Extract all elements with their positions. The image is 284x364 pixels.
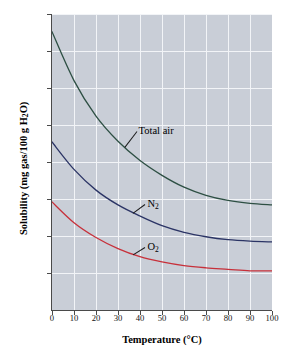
- x-axis-title: Temperature (°C): [52, 334, 272, 345]
- curve-total-air: [52, 32, 272, 205]
- x-tick-mark-90: [250, 311, 251, 315]
- y-tick-mark-3.00: [47, 88, 52, 89]
- curve-n2: [52, 142, 272, 242]
- y-tick-mark-2.50: [47, 125, 52, 126]
- annotation-total-air: Total air: [139, 126, 174, 137]
- y-tick-mark-0.50: [47, 273, 52, 274]
- x-tick-mark-70: [206, 311, 207, 315]
- x-tick-mark-40: [140, 311, 141, 315]
- x-tick-mark-10: [74, 311, 75, 315]
- solubility-chart-figure: Total airN2O2 0.501.001.502.002.503.003.…: [0, 0, 284, 364]
- curves-group: [52, 14, 272, 310]
- annotation-n2: N2: [147, 199, 158, 210]
- x-tick-mark-30: [118, 311, 119, 315]
- y-tick-mark-2.00: [47, 162, 52, 163]
- y-tick-mark-4.00: [47, 14, 52, 15]
- x-tick-mark-0: [52, 311, 53, 315]
- x-tick-mark-60: [184, 311, 185, 315]
- plot-area: Total airN2O2: [52, 14, 272, 310]
- annotation-o2: O2: [147, 242, 158, 253]
- x-tick-mark-100: [272, 311, 273, 315]
- y-tick-mark-3.50: [47, 51, 52, 52]
- y-tick-mark-1.50: [47, 199, 52, 200]
- curve-o2: [52, 202, 272, 271]
- x-tick-mark-50: [162, 311, 163, 315]
- y-axis-title: Solubility (mg gas/100 g H2O): [18, 48, 31, 288]
- x-tick-mark-20: [96, 311, 97, 315]
- x-tick-mark-80: [228, 311, 229, 315]
- y-tick-mark-1.00: [47, 236, 52, 237]
